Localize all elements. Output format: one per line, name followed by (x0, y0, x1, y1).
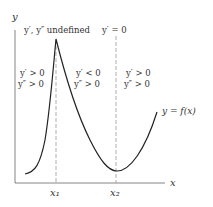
region3-first-derivative: y′ > 0 (125, 68, 151, 78)
region1-first-derivative: y′ > 0 (19, 68, 45, 78)
zero-derivative-annotation: y′ = 0 (101, 25, 127, 35)
x1-tick-label: x₁ (50, 187, 60, 198)
region3-second-derivative: y″ > 0 (123, 79, 150, 89)
region2-second-derivative: y″ > 0 (73, 79, 100, 89)
x2-tick-label: x₂ (110, 187, 120, 198)
region1-second-derivative: y″ > 0 (17, 79, 44, 89)
function-curve (25, 39, 157, 174)
curve-label: y = f(x) (161, 106, 196, 116)
region2-first-derivative: y′ < 0 (75, 68, 101, 78)
undefined-annotation: y′, y″ undefined (23, 25, 90, 35)
y-axis-label: y (11, 11, 18, 22)
function-diagram: y x x₁ x₂ y′, y″ undefined y′ = 0 y′ > 0… (0, 0, 213, 207)
x-axis-label: x (170, 177, 176, 188)
